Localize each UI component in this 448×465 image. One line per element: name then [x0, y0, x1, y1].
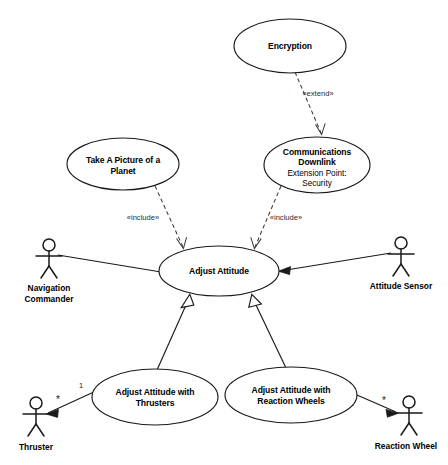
- use-case-encryption[interactable]: Encryption: [234, 19, 346, 73]
- use-case-adjust-reaction-wheels-label-line1: Adjust Attitude with: [252, 385, 331, 395]
- thruster-target-multiplicity-label: *: [56, 394, 60, 405]
- actor-attitude-sensor-label: Attitude Sensor: [370, 281, 433, 291]
- use-case-adjust-attitude[interactable]: Adjust Attitude: [159, 246, 279, 296]
- use-case-communications-downlink-label-line1: Communications: [283, 147, 352, 157]
- actor-left-leg-line: [28, 424, 36, 436]
- uml-diagram-svg: Communications Downlink ===== --> «exten…: [0, 0, 448, 465]
- actor-right-leg-line: [49, 266, 57, 278]
- reaction-wheel-target-multiplicity-label: *: [382, 395, 386, 406]
- include-right-arrowhead-icon: [251, 237, 261, 248]
- extend-dependency-encryption-to-comms-downlink: «extend»: [295, 72, 334, 135]
- association-navigation-commander-to-adjust-attitude: [58, 255, 161, 272]
- reaction-wheels-generalization-line: [256, 305, 286, 368]
- actor-reaction-wheel-label: Reaction Wheel: [375, 441, 437, 451]
- extend-arrowhead-icon: [316, 123, 326, 134]
- association-thrusters-usecase-to-thruster-actor: 1 *: [46, 381, 96, 417]
- include-dependency-comms-downlink-to-adjust-attitude: «include»: [251, 186, 302, 249]
- include-dependency-take-picture-to-adjust-attitude: «include»: [127, 186, 187, 249]
- actor-reaction-wheel-stick-figure-icon: [396, 396, 422, 435]
- association-attitude-sensor-to-adjust-attitude: [279, 253, 392, 275]
- actor-left-leg-line: [401, 423, 409, 435]
- use-case-take-a-picture-of-a-planet[interactable]: Take A Picture of a Planet: [67, 138, 179, 190]
- navigation-commander-association-line: [58, 255, 161, 272]
- generalization-thrusters-to-adjust-attitude: [157, 294, 194, 370]
- attitude-sensor-association-line: [280, 253, 391, 271]
- extension-point-value: Security: [302, 179, 332, 188]
- include-right-stereotype-label: «include»: [270, 213, 303, 222]
- thruster-source-multiplicity-label: 1: [79, 381, 83, 390]
- thrusters-generalization-line: [157, 305, 186, 370]
- actor-right-leg-line: [36, 424, 44, 436]
- extend-stereotype-label: «extend»: [302, 89, 333, 98]
- actor-attitude-sensor[interactable]: Attitude Sensor: [370, 237, 433, 291]
- extension-point-label: Extension Point:: [287, 169, 346, 178]
- actor-thruster-label: Thruster: [19, 442, 54, 452]
- use-case-communications-downlink[interactable]: Communications Downlink Extension Point:…: [264, 137, 370, 193]
- use-case-take-a-picture-label-line1: Take A Picture of a: [86, 155, 161, 165]
- actor-right-leg-line: [409, 423, 417, 435]
- reaction-wheels-generalization-arrowhead-icon: [249, 294, 262, 307]
- include-left-stereotype-label: «include»: [127, 213, 160, 222]
- use-case-adjust-attitude-with-reaction-wheels[interactable]: Adjust Attitude with Reaction Wheels: [225, 367, 357, 423]
- actor-left-leg-line: [41, 266, 49, 278]
- use-case-adjust-reaction-wheels-label-line2: Reaction Wheels: [257, 396, 325, 406]
- actor-left-leg-line: [393, 264, 401, 276]
- actor-navigation-commander-label-line1: Navigation: [28, 283, 71, 293]
- use-case-adjust-attitude-with-thrusters[interactable]: Adjust Attitude with Thrusters: [92, 369, 218, 425]
- attitude-sensor-arrowhead-icon: [279, 267, 291, 275]
- use-case-adjust-attitude-with-reaction-wheels-ellipse[interactable]: [225, 367, 357, 423]
- extend-dependency-line: [295, 72, 321, 133]
- thrusters-generalization-arrowhead-icon: [181, 294, 194, 307]
- use-case-encryption-label: Encryption: [268, 41, 312, 51]
- use-case-take-a-picture-label-line2: Planet: [110, 166, 135, 176]
- use-case-adjust-attitude-with-thrusters-ellipse[interactable]: [92, 369, 218, 425]
- actor-head-icon: [43, 239, 55, 251]
- use-case-communications-downlink-label-line2: Downlink: [298, 157, 336, 167]
- actor-navigation-commander[interactable]: Navigation Commander: [25, 239, 75, 304]
- use-case-adjust-thrusters-label-line1: Adjust Attitude with: [116, 387, 195, 397]
- use-case-diagram-canvas: Communications Downlink ===== --> «exten…: [0, 0, 448, 465]
- actor-navigation-commander-stick-figure-icon: [36, 239, 62, 278]
- actor-head-icon: [30, 397, 42, 409]
- actor-attitude-sensor-stick-figure-icon: [388, 237, 414, 276]
- use-case-adjust-thrusters-label-line2: Thrusters: [136, 398, 175, 408]
- actor-thruster-stick-figure-icon: [23, 397, 49, 436]
- actor-thruster[interactable]: Thruster: [19, 397, 54, 452]
- use-case-adjust-attitude-label: Adjust Attitude: [189, 266, 249, 276]
- actor-right-leg-line: [401, 264, 409, 276]
- actor-navigation-commander-label-line2: Commander: [25, 294, 75, 304]
- actor-head-icon: [395, 237, 407, 249]
- include-left-arrowhead-icon: [177, 237, 187, 248]
- actor-head-icon: [403, 396, 415, 408]
- generalization-reaction-wheels-to-adjust-attitude: [249, 294, 286, 368]
